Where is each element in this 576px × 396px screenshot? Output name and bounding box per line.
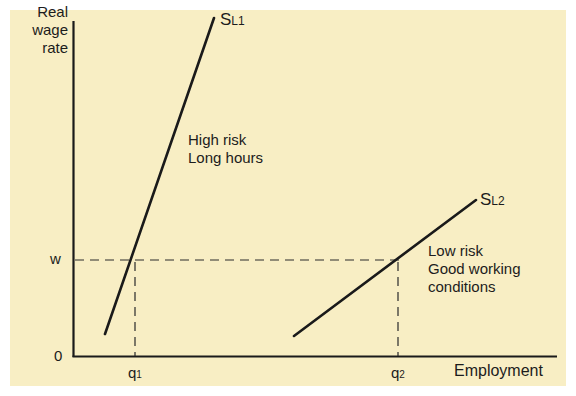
y-axis-label-line-1: Real [32,3,68,21]
sl2-desc-line-2: Good working [428,260,521,278]
y-axis-label: Real wage rate [32,3,68,57]
sl2-label: SL2 [480,191,505,210]
sl1-label: SL1 [220,11,245,30]
sl1-desc-line-2: Long hours [188,149,263,167]
q2-tick-label: q2 [391,364,405,383]
sl1-supply-curve [105,18,214,334]
y-axis-label-line-3: rate [32,39,68,57]
y-axis-label-line-2: wage [32,21,68,39]
sl2-desc-line-3: conditions [428,278,521,296]
sl2-description: Low risk Good working conditions [428,242,521,296]
q1-tick-label: q1 [128,364,142,383]
sl2-desc-line-1: Low risk [428,242,521,260]
sl1-desc-line-1: High risk [188,131,263,149]
w-tick-label: w [50,250,61,267]
origin-label: 0 [54,347,62,364]
x-axis-label: Employment [454,362,543,379]
sl1-description: High risk Long hours [188,131,263,167]
